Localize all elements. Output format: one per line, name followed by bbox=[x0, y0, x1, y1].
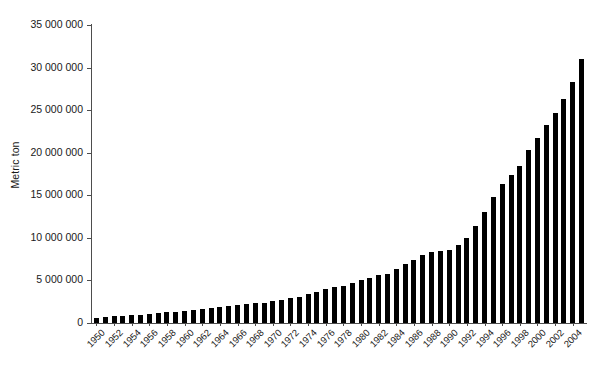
bar bbox=[509, 175, 514, 323]
bar bbox=[350, 283, 355, 323]
bar bbox=[438, 251, 443, 323]
x-axis-tick-label: 1984 bbox=[385, 327, 407, 349]
y-axis-tick-label: 30 000 000 bbox=[0, 61, 83, 73]
x-axis-tick-mark bbox=[502, 323, 503, 326]
x-axis-tick-mark bbox=[573, 323, 574, 326]
bar bbox=[456, 245, 461, 323]
x-axis-tick-mark bbox=[290, 323, 291, 326]
y-axis-tick-label: 25 000 000 bbox=[0, 103, 83, 115]
x-axis-tick-mark bbox=[202, 323, 203, 326]
bar bbox=[411, 260, 416, 323]
bar bbox=[491, 197, 496, 323]
x-axis-tick-mark bbox=[185, 323, 186, 326]
x-axis-tick-label: 1980 bbox=[349, 327, 371, 349]
bar bbox=[447, 250, 452, 323]
plot-area: 05 000 00010 000 00015 000 00020 000 000… bbox=[92, 25, 586, 323]
x-axis-tick-mark bbox=[255, 323, 256, 326]
y-axis-tick-mark bbox=[87, 25, 91, 26]
x-axis-tick-mark bbox=[396, 323, 397, 326]
bar bbox=[394, 269, 399, 323]
x-axis-tick-label: 1974 bbox=[296, 327, 318, 349]
bar bbox=[544, 125, 549, 323]
x-axis-tick-mark bbox=[432, 323, 433, 326]
x-axis-tick-mark bbox=[149, 323, 150, 326]
bar bbox=[288, 298, 293, 323]
x-axis-tick-mark bbox=[238, 323, 239, 326]
x-axis-tick-label: 1956 bbox=[138, 327, 160, 349]
bar bbox=[429, 252, 434, 323]
bar bbox=[244, 304, 249, 323]
bar bbox=[191, 310, 196, 323]
y-axis-tick-label: 0 bbox=[0, 316, 83, 328]
bar bbox=[226, 306, 231, 323]
x-axis-tick-label: 1990 bbox=[438, 327, 460, 349]
x-axis-labels: 1950195219541956195819601962196419661968… bbox=[92, 323, 586, 373]
y-axis-tick-label: 35 000 000 bbox=[0, 18, 83, 30]
bar bbox=[473, 226, 478, 323]
bar bbox=[376, 275, 381, 323]
x-axis-tick-mark bbox=[343, 323, 344, 326]
bar bbox=[270, 301, 275, 323]
x-axis-tick-label: 1952 bbox=[102, 327, 124, 349]
bar bbox=[182, 311, 187, 323]
x-axis-tick-mark bbox=[414, 323, 415, 326]
x-axis-tick-mark bbox=[467, 323, 468, 326]
bar bbox=[579, 59, 584, 323]
x-axis-tick-mark bbox=[485, 323, 486, 326]
y-axis-tick-mark bbox=[87, 110, 91, 111]
bar bbox=[314, 292, 319, 324]
x-axis-tick-label: 1996 bbox=[491, 327, 513, 349]
bar bbox=[464, 238, 469, 323]
bar bbox=[209, 308, 214, 323]
y-axis-tick-mark bbox=[87, 280, 91, 281]
x-axis-tick-mark bbox=[449, 323, 450, 326]
bar-series bbox=[92, 25, 586, 323]
y-axis-tick-label: 10 000 000 bbox=[0, 231, 83, 243]
bar bbox=[297, 297, 302, 323]
bar bbox=[253, 303, 258, 323]
bar bbox=[482, 212, 487, 323]
x-axis-tick-mark bbox=[273, 323, 274, 326]
bar bbox=[367, 278, 372, 323]
bar bbox=[129, 315, 134, 323]
bar bbox=[535, 138, 540, 323]
y-axis-tick-label: 5 000 000 bbox=[0, 273, 83, 285]
x-axis-tick-mark bbox=[132, 323, 133, 326]
bar bbox=[200, 309, 205, 323]
x-axis-tick-label: 1986 bbox=[402, 327, 424, 349]
bar bbox=[570, 82, 575, 323]
bar bbox=[112, 316, 117, 323]
bar bbox=[164, 312, 169, 323]
x-axis-tick-mark bbox=[167, 323, 168, 326]
bar bbox=[500, 184, 505, 323]
bar bbox=[323, 289, 328, 323]
y-axis-tick-mark bbox=[87, 238, 91, 239]
x-axis-tick-mark bbox=[220, 323, 221, 326]
bar bbox=[138, 315, 143, 324]
bar bbox=[517, 166, 522, 324]
bar bbox=[526, 150, 531, 323]
x-axis-tick-mark bbox=[308, 323, 309, 326]
bar bbox=[553, 113, 558, 323]
x-axis-tick-mark bbox=[114, 323, 115, 326]
bar bbox=[173, 312, 178, 323]
bar bbox=[332, 287, 337, 323]
x-axis-tick-mark bbox=[520, 323, 521, 326]
bar bbox=[403, 264, 408, 323]
bar bbox=[147, 314, 152, 323]
x-axis-tick-mark bbox=[361, 323, 362, 326]
bar bbox=[156, 313, 161, 323]
y-axis-tick-label: 20 000 000 bbox=[0, 146, 83, 158]
x-axis-tick-label: 2004 bbox=[561, 327, 583, 349]
bar bbox=[561, 99, 566, 323]
bar bbox=[306, 294, 311, 323]
x-axis-tick-mark bbox=[379, 323, 380, 326]
x-axis-tick-label: 1964 bbox=[208, 327, 230, 349]
bar bbox=[420, 255, 425, 323]
y-axis-tick-mark bbox=[87, 323, 91, 324]
x-axis-tick-mark bbox=[537, 323, 538, 326]
bar bbox=[262, 303, 267, 323]
x-axis-tick-mark bbox=[96, 323, 97, 326]
x-axis-tick-label: 1992 bbox=[455, 327, 477, 349]
y-axis-tick-mark bbox=[87, 195, 91, 196]
